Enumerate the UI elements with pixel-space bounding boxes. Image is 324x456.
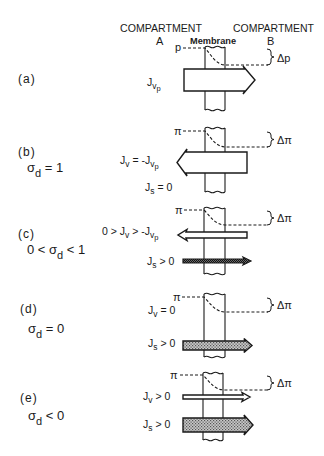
delta-osmotic-label: Δπ xyxy=(277,299,292,311)
volume-flow-label: Jvp xyxy=(147,76,161,93)
reflection-coefficient-condition: σd = 1 xyxy=(27,160,63,179)
volume-flow-label: Jv = -Jvp xyxy=(120,154,159,171)
panel-label: (c) xyxy=(18,227,35,241)
pressure-symbol: p xyxy=(175,41,181,53)
panel-label: (b) xyxy=(18,145,36,159)
solute-flow-label: Js > 0 xyxy=(148,337,175,352)
arrow-left-icon xyxy=(178,230,247,241)
membrane-label: Membrane xyxy=(190,36,236,46)
osmotic-profile: π Δπ xyxy=(170,369,292,390)
solute-flow-label: Js > 0 xyxy=(147,255,174,270)
reflection-coefficient-condition: 0 < σd < 1 xyxy=(27,242,85,261)
osmotic-pressure-symbol: π xyxy=(173,291,181,303)
delta-osmotic-label: Δπ xyxy=(277,377,292,389)
volume-flow-label: Jv = 0 xyxy=(148,304,175,319)
panel-label: (e) xyxy=(20,391,38,405)
compartment-b-letter: B xyxy=(267,35,274,47)
panel-d: (d) σd = 0 π Δπ Jv = 0 Js > 0 xyxy=(20,291,292,358)
compartment-b-title: COMPARTMENT xyxy=(233,22,314,34)
osmotic-profile: π Δπ xyxy=(174,125,292,147)
header: COMPARTMENT A Membrane COMPARTMENT B xyxy=(120,22,314,47)
volume-flow-label: 0 > Jv > -Jvp xyxy=(102,225,158,242)
osmotic-pressure-symbol: π xyxy=(174,125,182,137)
osmotic-profile: π Δπ xyxy=(175,204,292,225)
panel-e: (e) σd < 0 π Δπ Jv > 0 Js > 0 xyxy=(20,369,292,441)
solute-flow-label: Js = 0 xyxy=(145,181,172,196)
arrow-right-icon xyxy=(183,257,251,265)
panel-label: (a) xyxy=(18,72,36,86)
compartment-a-title: COMPARTMENT xyxy=(120,22,202,34)
reflection-coefficient-condition: σd < 0 xyxy=(28,408,64,427)
panel-b: (b) σd = 1 π Δπ Jv = -Jvp Js = 0 xyxy=(18,125,292,196)
panel-c: (c) 0 < σd < 1 π Δπ 0 > Jv > -Jvp Js > 0 xyxy=(18,204,292,275)
arrow-left-icon xyxy=(177,149,247,176)
panel-a: (a) p Δp Jvp xyxy=(18,41,290,111)
panel-label: (d) xyxy=(20,302,38,316)
delta-osmotic-label: Δπ xyxy=(277,134,292,146)
osmotic-pressure-symbol: π xyxy=(170,369,178,381)
membrane-transport-diagram: COMPARTMENT A Membrane COMPARTMENT B (a)… xyxy=(0,0,324,456)
membrane xyxy=(204,207,225,275)
arrow-right-icon xyxy=(184,66,255,94)
delta-osmotic-label: Δπ xyxy=(277,212,292,224)
arrow-right-icon xyxy=(183,415,253,435)
volume-flow-label: Jv > 0 xyxy=(143,390,170,405)
osmotic-pressure-symbol: π xyxy=(175,204,183,216)
reflection-coefficient-condition: σd = 0 xyxy=(28,321,64,340)
osmotic-profile: π Δπ xyxy=(173,291,292,312)
delta-pressure-label: Δp xyxy=(277,52,290,64)
compartment-a-letter: A xyxy=(156,35,164,47)
arrow-right-icon xyxy=(183,393,250,402)
arrow-right-icon xyxy=(183,339,252,353)
solute-flow-label: Js > 0 xyxy=(143,418,170,433)
